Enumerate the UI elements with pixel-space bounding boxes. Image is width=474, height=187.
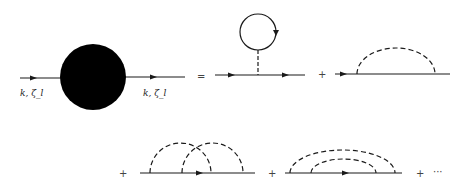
full-propagator xyxy=(20,44,185,110)
arrow-icon xyxy=(150,75,157,80)
equals-sign: = xyxy=(197,71,205,82)
rainbow-first-order xyxy=(335,48,450,77)
ellipsis: ··· xyxy=(433,166,443,177)
plus-sign: + xyxy=(318,69,326,80)
plus-sign: + xyxy=(416,168,424,179)
diagram-canvas: k, ζ_l k, ζ_l = + + + + ··· xyxy=(0,0,474,187)
rainbow-second-order xyxy=(285,150,402,175)
arrow-icon xyxy=(30,76,37,81)
plus-sign: + xyxy=(268,168,276,179)
crossed-second-order xyxy=(140,143,255,176)
plus-sign: + xyxy=(119,168,127,179)
tadpole-diagram xyxy=(215,14,305,78)
self-energy-blob xyxy=(60,44,126,110)
momentum-label-left: k, ζ_l xyxy=(20,88,44,99)
momentum-label-right: k, ζ_l xyxy=(143,88,167,99)
feynman-diagram: k, ζ_l k, ζ_l = + + + + ··· xyxy=(0,0,474,187)
